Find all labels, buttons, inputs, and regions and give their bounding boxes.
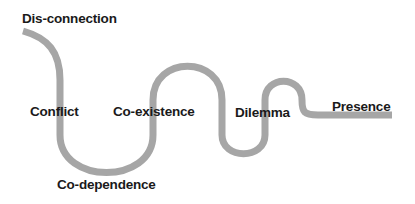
stage-label-dilemma: Dilemma xyxy=(235,105,290,120)
stage-label-co-existence: Co-existence xyxy=(113,104,195,119)
stage-label-dis-connection: Dis-connection xyxy=(22,11,117,26)
stage-label-presence: Presence xyxy=(332,99,390,114)
stage-label-conflict: Conflict xyxy=(30,104,79,119)
stage-label-co-dependence: Co-dependence xyxy=(57,177,156,192)
